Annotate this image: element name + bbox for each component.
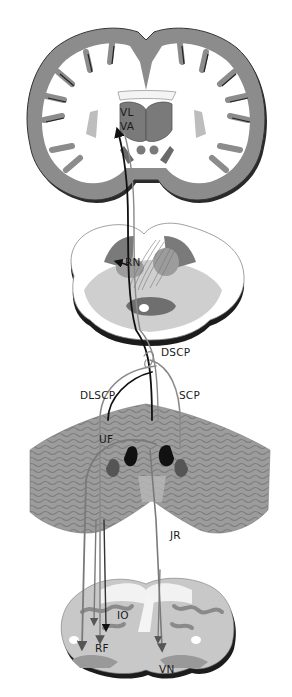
label-scp: SCP <box>179 390 200 401</box>
cerebellum <box>30 404 270 533</box>
label-va: VA <box>120 121 134 132</box>
label-rf: RF <box>95 643 109 654</box>
label-rn: RN <box>125 257 141 268</box>
cerebellar-efferent-pathway-diagram: VL VA RN DSCP DLSCP SCP UF JR IO RF VN <box>0 0 292 697</box>
diagram-illustration <box>0 0 292 697</box>
label-jr: JR <box>170 530 181 541</box>
label-vn: VN <box>159 664 174 675</box>
midbrain-section <box>71 223 244 346</box>
label-dlscp: DLSCP <box>80 390 115 401</box>
label-uf: UF <box>99 434 113 445</box>
label-vl: VL <box>120 107 133 118</box>
cerebrum-section <box>27 28 267 203</box>
label-io: IO <box>117 610 129 621</box>
label-dscp: DSCP <box>161 347 190 358</box>
medulla-section <box>61 578 236 678</box>
